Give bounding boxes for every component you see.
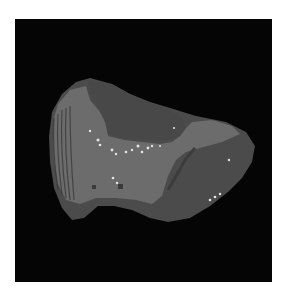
rendered-3d-object xyxy=(0,0,287,295)
